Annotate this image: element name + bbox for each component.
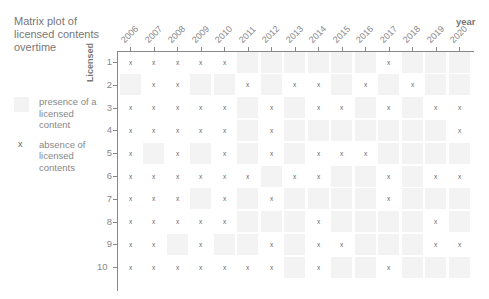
presence-cell [331,188,352,209]
absence-cell: x [190,257,211,278]
presence-cell [284,97,305,118]
presence-cell [284,234,305,255]
presence-cell [284,143,305,164]
absence-cell: x [167,120,188,141]
absence-cell: x [284,74,305,95]
x-tick-label: 2007 [143,24,164,45]
absence-cell: x [261,257,282,278]
presence-cell [402,97,423,118]
presence-cell [237,97,258,118]
presence-cell [355,166,376,187]
presence-cell [190,74,211,95]
presence-cell [261,74,282,95]
x-tick-label: 2020 [448,24,469,45]
presence-cell [402,120,423,141]
presence-cell [237,211,258,232]
presence-cell [284,257,305,278]
presence-cell [425,74,446,95]
y-tick-label: 1 [102,56,112,67]
absence-cell: x [308,257,329,278]
absence-cell: x [167,143,188,164]
presence-cell [284,211,305,232]
absence-cell: x [261,120,282,141]
absence-cell: x [120,211,141,232]
presence-cell [449,257,470,278]
presence-cell [261,211,282,232]
absence-cell: x [449,234,470,255]
presence-cell [425,257,446,278]
y-axis-label: Licensed [85,43,95,82]
absence-cell: x [120,143,141,164]
presence-cell [378,74,399,95]
presence-cell [402,188,423,209]
absence-cell: x [308,143,329,164]
presence-cell [331,52,352,73]
absence-cell: x [214,143,235,164]
absence-cell: x [143,97,164,118]
presence-cell [449,188,470,209]
absence-cell: x [237,257,258,278]
presence-cell [355,97,376,118]
presence-cell [331,211,352,232]
absence-cell: x [214,257,235,278]
absence-cell: x [143,211,164,232]
x-tick-label: 2017 [378,24,399,45]
presence-cell [190,188,211,209]
x-tick-label: 2018 [401,24,422,45]
x-tick-label: 2016 [354,24,375,45]
y-tick [113,222,118,223]
absence-cell: x [214,120,235,141]
absence-cell: x [120,257,141,278]
presence-cell [449,143,470,164]
absence-cell: x [261,97,282,118]
matrix-plot: Licensed year 20062007200820092010201120… [0,0,489,299]
presence-cell [355,257,376,278]
absence-cell: x [284,166,305,187]
absence-cell: x [308,74,329,95]
absence-cell: x [425,211,446,232]
absence-cell: x [331,234,352,255]
x-tick-label: 2015 [331,24,352,45]
y-tick [113,267,118,268]
presence-cell [378,211,399,232]
absence-cell: x [190,97,211,118]
absence-cell: x [120,234,141,255]
presence-cell [143,143,164,164]
absence-cell: x [214,52,235,73]
presence-cell [425,143,446,164]
presence-cell [355,120,376,141]
presence-cell [402,143,423,164]
absence-cell: x [308,234,329,255]
presence-cell [355,188,376,209]
y-tick-label: 7 [102,193,112,204]
presence-cell [425,120,446,141]
absence-cell: x [378,257,399,278]
absence-cell: x [308,97,329,118]
x-tick-label: 2014 [307,24,328,45]
absence-cell: x [190,120,211,141]
presence-cell [237,143,258,164]
y-tick-label: 10 [97,261,107,272]
y-tick-label: 5 [102,147,112,158]
presence-cell [308,52,329,73]
presence-cell [331,120,352,141]
absence-cell: x [237,166,258,187]
presence-cell [214,74,235,95]
presence-cell [378,234,399,255]
absence-cell: x [402,74,423,95]
y-tick [113,85,118,86]
presence-cell [425,188,446,209]
y-tick [113,244,118,245]
absence-cell: x [167,97,188,118]
absence-cell: x [355,74,376,95]
presence-cell [355,234,376,255]
presence-cell [261,52,282,73]
presence-cell [237,234,258,255]
absence-cell: x [120,97,141,118]
x-tick-label: 2006 [119,24,140,45]
y-tick [113,153,118,154]
absence-cell: x [143,120,164,141]
absence-cell: x [143,234,164,255]
absence-cell: x [355,143,376,164]
absence-cell: x [190,234,211,255]
